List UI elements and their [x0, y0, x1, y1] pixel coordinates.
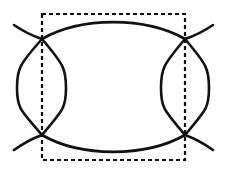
- tail-bottom-left: [14, 135, 42, 150]
- tail-top-left: [14, 25, 42, 39]
- bottom-connecting-arc: [42, 135, 185, 152]
- tail-top-right: [185, 25, 213, 39]
- top-connecting-arc: [42, 22, 185, 39]
- fundamental-domain-rectangle: [42, 14, 185, 160]
- figure-container: [0, 0, 225, 177]
- diagram-canvas: [0, 0, 225, 177]
- tail-bottom-right: [185, 135, 213, 150]
